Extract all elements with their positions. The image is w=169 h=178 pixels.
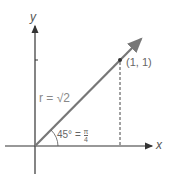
point-1-1 (118, 58, 122, 62)
angle-deg: 45° = (57, 129, 81, 140)
polar-diagram (0, 0, 169, 178)
y-axis-label: y (30, 10, 36, 24)
angle-fraction: π 4 (84, 128, 89, 143)
point-label: (1, 1) (126, 56, 152, 68)
angle-frac-num: π (84, 128, 89, 136)
radius-label: r = √2 (39, 91, 70, 105)
x-axis-label: x (156, 138, 162, 152)
angle-label: 45° = π 4 (57, 128, 88, 143)
angle-frac-den: 4 (84, 136, 89, 143)
